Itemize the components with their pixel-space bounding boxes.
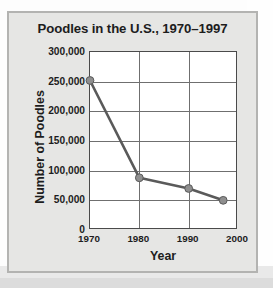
y-axis-tick-label: 100,000 <box>11 164 85 175</box>
x-axis-tick-label: 1990 <box>166 233 210 244</box>
x-axis-tick-label: 1970 <box>67 233 111 244</box>
x-axis-tick-label: 1980 <box>116 233 160 244</box>
x-axis-tick-label: 2000 <box>215 233 259 244</box>
data-point-marker <box>135 174 143 182</box>
line-series-svg <box>90 52 238 230</box>
data-line <box>90 80 223 200</box>
y-axis-tick-label: 250,000 <box>11 75 85 86</box>
data-point-marker <box>185 185 193 193</box>
chart-figure-inner: Poodles in the U.S., 1970–1997 050,00010… <box>9 13 256 271</box>
y-axis-tick-labels: 050,000100,000150,000200,000250,000300,0… <box>9 51 85 229</box>
y-axis-tick-label: 200,000 <box>11 105 85 116</box>
y-axis-tick-label: 150,000 <box>11 135 85 146</box>
page-bottom-band-shadow <box>0 278 273 288</box>
y-axis-title: Number of Poodles <box>33 72 47 222</box>
data-series-layer <box>90 52 236 228</box>
plot-area <box>89 51 237 229</box>
page-background: Poodles in the U.S., 1970–1997 050,00010… <box>0 0 273 288</box>
x-axis-title: Year <box>89 249 237 263</box>
chart-title: Poodles in the U.S., 1970–1997 <box>9 21 256 36</box>
x-axis-tick-labels: 1970198019902000 <box>89 233 237 249</box>
data-point-marker <box>219 196 227 204</box>
data-point-marker <box>86 77 94 85</box>
y-axis-tick-label: 300,000 <box>11 46 85 57</box>
y-axis-tick-label: 50,000 <box>11 194 85 205</box>
chart-figure-panel: Poodles in the U.S., 1970–1997 050,00010… <box>7 11 258 273</box>
